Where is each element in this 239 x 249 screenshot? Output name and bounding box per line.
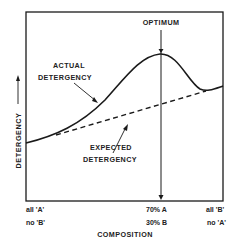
optimum-arrow-down-icon — [159, 49, 164, 53]
y-axis-label: DETERGENCY — [14, 107, 23, 175]
x-tick-mid-line2: 30% B — [146, 218, 167, 227]
x-tick-left-line1: all 'A' — [26, 205, 44, 214]
optimum-label: OPTIMUM — [139, 19, 183, 27]
diagram: OPTIMUM ACTUAL DETERGENCY EXPECTED DETER… — [0, 0, 239, 249]
x-tick-mid-line1: 70% A — [146, 205, 167, 214]
x-axis-label: COMPOSITION — [90, 231, 160, 239]
x-tick-right-line1: all 'B' — [206, 205, 224, 214]
expected-pointer-arrow-icon — [123, 124, 128, 131]
expected-detergency-label-line1: EXPECTED — [82, 144, 140, 152]
expected-detergency-label-line2: DETERGENCY — [78, 156, 142, 164]
plot-frame — [26, 12, 223, 201]
x-tick-right-line2: no 'A' — [207, 218, 226, 227]
expected-detergency-line — [56, 91, 206, 135]
actual-detergency-label-line2: DETERGENCY — [34, 74, 96, 82]
actual-detergency-label-line1: ACTUAL — [42, 62, 96, 70]
y-axis-arrow-up-icon — [16, 75, 20, 81]
x-tick-left-line2: no 'B' — [26, 218, 45, 227]
composition-arrow-down-icon — [159, 195, 164, 200]
actual-pointer — [74, 83, 96, 101]
